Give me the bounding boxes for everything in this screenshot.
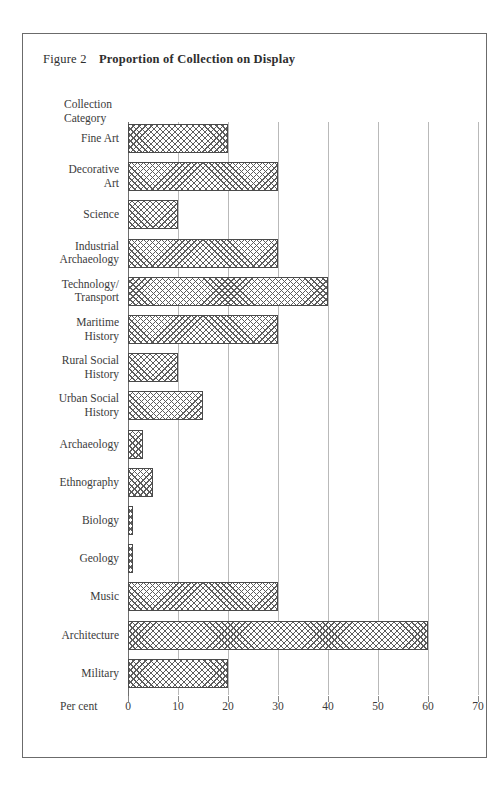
gridline-60 xyxy=(428,122,429,695)
bar xyxy=(128,582,278,611)
category-label-line1: Decorative xyxy=(69,163,119,177)
x-tick-label: 50 xyxy=(372,700,384,712)
bar xyxy=(128,430,143,459)
category-label-line1: Music xyxy=(90,590,119,604)
x-tick-label: 60 xyxy=(422,700,434,712)
category-label-line2: Art xyxy=(69,177,119,191)
category-label: Geology xyxy=(79,552,119,566)
category-label: Fine Art xyxy=(81,132,119,146)
gridline-70 xyxy=(478,122,479,695)
category-label-line2: Transport xyxy=(62,291,119,305)
category-label-line1: Urban Social xyxy=(59,392,119,406)
bar xyxy=(128,391,203,420)
category-label: DecorativeArt xyxy=(69,163,119,190)
category-label-line2: History xyxy=(62,368,119,382)
x-tick-label: 20 xyxy=(222,700,234,712)
category-label-line1: Science xyxy=(83,208,119,222)
category-label-line2: History xyxy=(59,406,119,420)
category-label: Music xyxy=(90,590,119,604)
x-tick-label: 30 xyxy=(272,700,284,712)
category-label-line1: Biology xyxy=(82,514,119,528)
category-label-line2: Archaeology xyxy=(60,253,119,267)
bar xyxy=(128,162,278,191)
y-axis-title-line2: Category xyxy=(64,112,112,126)
bar xyxy=(128,200,178,229)
category-label-line1: Military xyxy=(81,667,119,681)
category-label: MaritimeHistory xyxy=(76,316,119,343)
x-tick-label: 10 xyxy=(172,700,184,712)
y-axis-title-line1: Collection xyxy=(64,98,112,112)
category-label: IndustrialArchaeology xyxy=(60,240,119,267)
category-label-line1: Archaeology xyxy=(60,438,119,452)
bar xyxy=(128,124,228,153)
category-label: Technology/Transport xyxy=(62,278,119,305)
gridline-30 xyxy=(278,122,279,695)
category-label-line1: Ethnography xyxy=(60,476,119,490)
category-label: Ethnography xyxy=(60,476,119,490)
gridline-50 xyxy=(378,122,379,695)
y-axis-title: Collection Category xyxy=(64,98,112,125)
category-label: Biology xyxy=(82,514,119,528)
bar xyxy=(128,659,228,688)
category-label: Urban SocialHistory xyxy=(59,392,119,419)
category-label-line1: Fine Art xyxy=(81,132,119,146)
bar xyxy=(128,277,328,306)
bar xyxy=(128,468,153,497)
gridline-40 xyxy=(328,122,329,695)
bar-chart-plot-area: Collection Category Fine ArtDecorativeAr… xyxy=(0,0,504,787)
x-axis-title: Per cent xyxy=(60,700,97,712)
category-label: Science xyxy=(83,208,119,222)
category-label: Archaeology xyxy=(60,438,119,452)
category-label-line1: Geology xyxy=(79,552,119,566)
category-label-line1: Rural Social xyxy=(62,354,119,368)
x-tick-label: 70 xyxy=(472,700,484,712)
x-tick-label: 0 xyxy=(125,700,131,712)
bar xyxy=(128,353,178,382)
x-tick-label: 40 xyxy=(322,700,334,712)
bar xyxy=(128,315,278,344)
category-label-line1: Maritime xyxy=(76,316,119,330)
category-label-line1: Technology/ xyxy=(62,278,119,292)
bar xyxy=(128,621,428,650)
bar xyxy=(128,544,133,573)
category-label-line1: Architecture xyxy=(62,629,119,643)
category-label-line2: History xyxy=(76,330,119,344)
category-label: Military xyxy=(81,667,119,681)
bar xyxy=(128,506,133,535)
category-label-line1: Industrial xyxy=(60,240,119,254)
category-label: Architecture xyxy=(62,629,119,643)
bar xyxy=(128,239,278,268)
category-label: Rural SocialHistory xyxy=(62,354,119,381)
